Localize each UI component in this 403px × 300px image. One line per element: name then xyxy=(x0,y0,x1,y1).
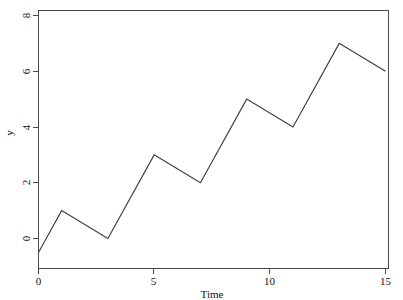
y-tick-label-4: 4 xyxy=(20,124,32,130)
x-tick-label-5: 5 xyxy=(151,275,157,287)
x-tick-label-15: 15 xyxy=(380,275,392,287)
chart-canvas: 8 6 4 2 0 y 0 5 10 15 Time xyxy=(0,0,403,300)
y-tick-label-2: 2 xyxy=(20,180,32,186)
x-tick-label-10: 10 xyxy=(264,275,276,287)
y-tick-label-0: 0 xyxy=(20,235,32,241)
y-tick-label-8: 8 xyxy=(20,12,32,18)
x-tick-label-0: 0 xyxy=(36,275,42,287)
line-chart-figure: 8 6 4 2 0 y 0 5 10 15 Time xyxy=(0,0,403,300)
x-axis-title: Time xyxy=(201,288,224,300)
y-tick-label-6: 6 xyxy=(20,68,32,74)
y-axis-title: y xyxy=(3,130,15,136)
